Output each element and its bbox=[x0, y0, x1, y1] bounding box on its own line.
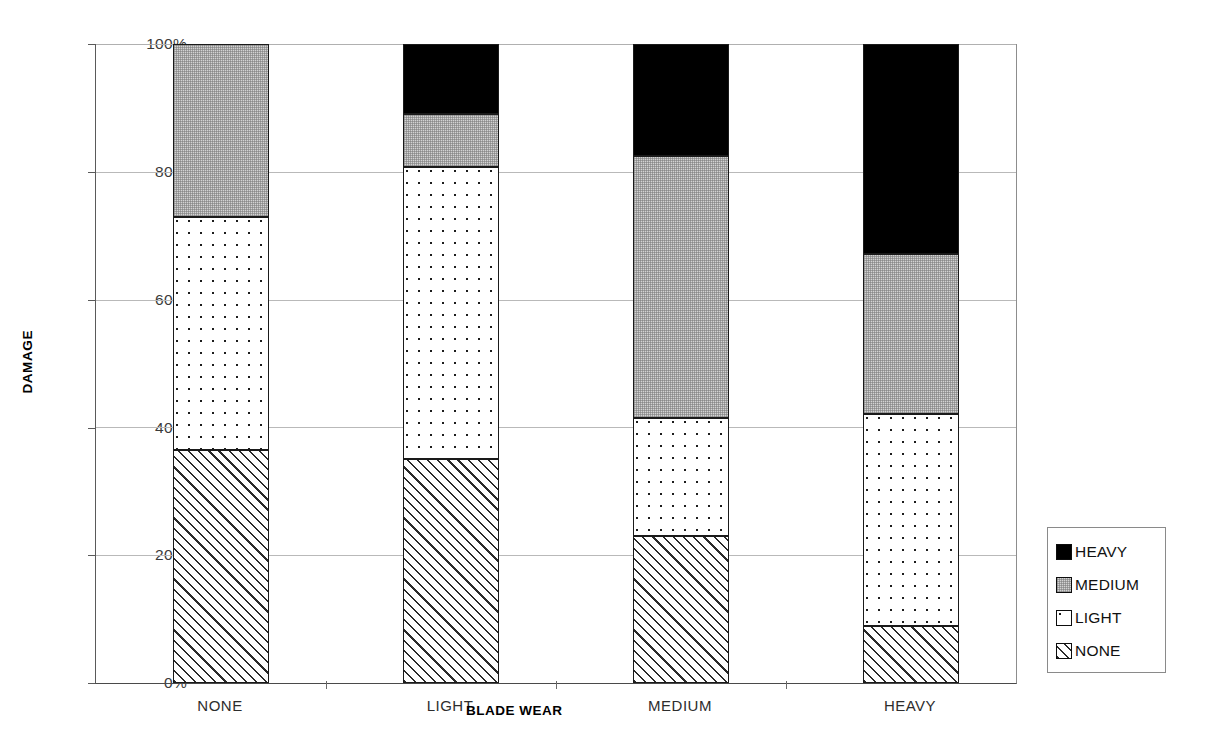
bar-segment-none-none[interactable] bbox=[173, 450, 269, 683]
bar-segment-medium-heavy[interactable] bbox=[633, 44, 729, 156]
bar-segment-light-light[interactable] bbox=[403, 167, 499, 460]
bar-segment-light-heavy[interactable] bbox=[403, 44, 499, 114]
bar-group-heavy[interactable] bbox=[863, 44, 959, 683]
legend[interactable]: HEAVY MEDIUM LIGHT NONE bbox=[1047, 527, 1166, 673]
bar-segment-heavy-medium[interactable] bbox=[863, 254, 959, 414]
bar-segment-heavy-light[interactable] bbox=[863, 414, 959, 626]
legend-item-light[interactable]: LIGHT bbox=[1056, 601, 1165, 634]
legend-item-none[interactable]: NONE bbox=[1056, 634, 1165, 667]
bar-group-light[interactable] bbox=[403, 44, 499, 683]
y-tick-mark-80 bbox=[88, 172, 95, 173]
x-tick-label-heavy: HEAVY bbox=[884, 697, 936, 714]
x-axis-divider-3 bbox=[786, 681, 787, 689]
legend-swatch-medium-icon bbox=[1056, 577, 1072, 593]
y-tick-mark-20 bbox=[88, 555, 95, 556]
bar-segment-none-medium[interactable] bbox=[173, 44, 269, 217]
bar-group-none[interactable] bbox=[173, 44, 269, 683]
legend-swatch-none-icon bbox=[1056, 643, 1072, 659]
bar-segment-none-light[interactable] bbox=[173, 217, 269, 450]
bar-segment-medium-light[interactable] bbox=[633, 418, 729, 536]
bar-segment-light-medium[interactable] bbox=[403, 114, 499, 166]
x-axis-divider-2 bbox=[556, 681, 557, 689]
bar-group-medium[interactable] bbox=[633, 44, 729, 683]
legend-label-heavy: HEAVY bbox=[1075, 543, 1127, 561]
y-axis-title: DAMAGE bbox=[20, 330, 40, 394]
legend-label-medium: MEDIUM bbox=[1075, 576, 1139, 594]
bar-segment-light-none[interactable] bbox=[403, 459, 499, 683]
bar-segment-heavy-none[interactable] bbox=[863, 626, 959, 683]
y-tick-mark-40 bbox=[88, 428, 95, 429]
legend-item-heavy[interactable]: HEAVY bbox=[1056, 535, 1165, 568]
y-tick-mark-60 bbox=[88, 300, 95, 301]
x-tick-label-medium: MEDIUM bbox=[648, 697, 712, 714]
plot-area bbox=[95, 44, 1017, 684]
chart-container: DAMAGE 100% 80% 60% 40% 20% 0% bbox=[0, 0, 1209, 751]
y-tick-mark-100 bbox=[88, 44, 95, 45]
legend-item-medium[interactable]: MEDIUM bbox=[1056, 568, 1165, 601]
legend-swatch-heavy-icon bbox=[1056, 544, 1072, 560]
x-tick-label-none: NONE bbox=[197, 697, 242, 714]
x-axis-title: BLADE WEAR bbox=[466, 703, 563, 718]
legend-label-none: NONE bbox=[1075, 642, 1121, 660]
bar-segment-medium-none[interactable] bbox=[633, 536, 729, 683]
bar-segment-heavy-heavy[interactable] bbox=[863, 44, 959, 254]
bar-segment-medium-medium[interactable] bbox=[633, 156, 729, 418]
x-axis-divider-1 bbox=[326, 681, 327, 689]
y-tick-mark-0 bbox=[88, 683, 95, 684]
legend-swatch-light-icon bbox=[1056, 610, 1072, 626]
legend-label-light: LIGHT bbox=[1075, 609, 1122, 627]
